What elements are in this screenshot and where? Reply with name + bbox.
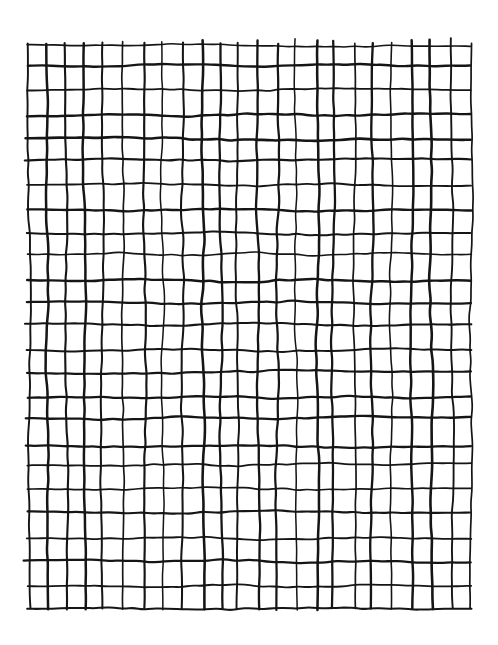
grid-horizontal-lines — [24, 44, 472, 610]
grid-line-horizontal — [27, 183, 471, 186]
grid-line-vertical — [46, 44, 49, 609]
grid-line-vertical — [451, 38, 454, 608]
hand-drawn-grid — [0, 0, 498, 645]
grid-line-horizontal — [27, 209, 471, 212]
grid-line-vertical — [83, 43, 87, 609]
grid-line-horizontal — [27, 232, 470, 236]
grid-line-horizontal — [28, 396, 471, 399]
grid-line-vertical — [27, 43, 31, 608]
grid-line-horizontal — [27, 279, 471, 282]
grid-line-horizontal — [25, 323, 471, 326]
grid-line-horizontal — [27, 370, 471, 374]
grid-line-horizontal — [28, 584, 471, 587]
grid-line-horizontal — [25, 158, 472, 161]
grid-line-horizontal — [27, 113, 471, 116]
grid-line-horizontal — [24, 559, 471, 563]
grid-line-horizontal — [27, 44, 470, 47]
grid-line-horizontal — [28, 64, 470, 67]
grid-line-vertical — [236, 43, 239, 609]
grid-line-vertical — [469, 43, 473, 608]
grid-line-vertical — [275, 44, 279, 610]
grid-line-horizontal — [27, 537, 471, 540]
grid-line-vertical — [65, 43, 69, 609]
grid-line-horizontal — [27, 607, 471, 609]
grid-line-horizontal — [27, 487, 470, 490]
grid-line-horizontal — [27, 463, 471, 467]
grid-line-vertical — [256, 40, 260, 609]
grid-line-horizontal — [28, 510, 471, 513]
grid-line-horizontal — [27, 301, 471, 304]
grid-line-vertical — [219, 43, 223, 608]
grid-line-horizontal — [26, 445, 471, 448]
grid-line-horizontal — [27, 88, 471, 91]
grid-line-horizontal — [26, 137, 471, 141]
paper-sheet — [0, 0, 498, 645]
grid-line-horizontal — [26, 416, 471, 420]
grid-line-horizontal — [27, 348, 472, 352]
grid-line-horizontal — [28, 252, 472, 256]
